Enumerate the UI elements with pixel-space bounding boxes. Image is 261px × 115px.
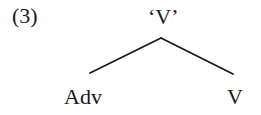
- syntax-tree-figure: (3) ‘V’ Adv V: [0, 0, 261, 115]
- right-branch-line: [161, 38, 233, 74]
- tree-node-v: V: [227, 86, 243, 108]
- left-branch-line: [90, 38, 161, 73]
- tree-node-adv: Adv: [64, 86, 102, 108]
- tree-branches: [0, 0, 261, 115]
